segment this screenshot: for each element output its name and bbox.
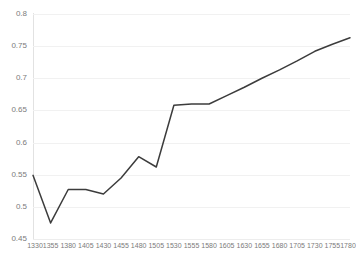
x-axis-tick-label: 1655 [254, 242, 270, 250]
x-axis-tick-label: 1380 [60, 242, 76, 250]
x-axis-tick-label: 1680 [272, 242, 288, 250]
y-axis-tick-label: 0.65 [0, 106, 27, 114]
y-axis-tick-labels: 0.80.750.70.650.60.550.50.45 [0, 14, 29, 239]
x-axis-tick-label: 1455 [113, 242, 129, 250]
x-axis-tick-label: 1555 [184, 242, 200, 250]
x-axis-tick-label: 1480 [131, 242, 147, 250]
plot-area [33, 14, 350, 239]
x-axis-tick-label: 1530 [166, 242, 182, 250]
y-axis-tick-label: 0.6 [0, 139, 27, 147]
x-axis-tick-labels: 1330135513801405143014551480150515301555… [33, 242, 350, 256]
y-axis-tick-label: 0.7 [0, 74, 27, 82]
y-axis-tick-label: 0.5 [0, 203, 27, 211]
x-axis-tick-label: 1630 [237, 242, 253, 250]
gridline [33, 239, 350, 240]
y-axis-tick-label: 0.8 [0, 10, 27, 18]
y-axis-tick-label: 0.55 [0, 171, 27, 179]
x-axis-tick-label: 1505 [148, 242, 164, 250]
y-axis-tick-label: 0.75 [0, 42, 27, 50]
x-axis-tick-label: 1330 [27, 242, 43, 250]
x-axis-tick-label: 1430 [96, 242, 112, 250]
series-1-line [33, 38, 350, 223]
x-axis-tick-label: 1730 [307, 242, 323, 250]
x-axis-tick-label: 1355 [43, 242, 59, 250]
x-axis-tick-label: 1580 [201, 242, 217, 250]
y-axis-tick-label: 0.45 [0, 235, 27, 243]
x-axis-tick-label: 1755 [325, 242, 341, 250]
x-axis-tick-label: 1705 [289, 242, 305, 250]
series-line-svg [33, 14, 350, 239]
x-axis-tick-label: 1605 [219, 242, 235, 250]
x-axis-tick-label: 1780 [340, 242, 356, 250]
x-axis-tick-label: 1405 [78, 242, 94, 250]
